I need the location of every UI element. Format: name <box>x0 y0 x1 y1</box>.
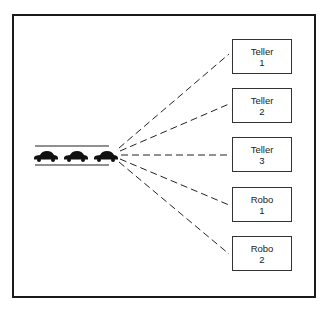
car-icon <box>64 151 88 162</box>
server-box-teller-2: Teller 2 <box>232 88 292 123</box>
server-number: 2 <box>259 106 264 117</box>
server-box-teller-1: Teller 1 <box>232 39 292 74</box>
route-line-robo-2 <box>119 162 229 254</box>
server-number: 1 <box>259 57 264 68</box>
server-label: Teller <box>251 144 274 155</box>
server-box-robo-2: Robo 2 <box>232 236 292 271</box>
car-icon <box>94 151 118 162</box>
car-icon <box>34 151 58 162</box>
server-label: Teller <box>251 46 274 57</box>
server-number: 1 <box>259 205 264 216</box>
server-label: Teller <box>251 95 274 106</box>
route-line-teller-1 <box>119 54 229 148</box>
server-number: 3 <box>259 155 264 166</box>
server-box-teller-3: Teller 3 <box>232 137 292 172</box>
server-box-robo-1: Robo 1 <box>232 187 292 222</box>
route-line-teller-2 <box>120 104 229 151</box>
server-label: Robo <box>251 194 274 205</box>
route-line-robo-1 <box>120 159 229 205</box>
server-label: Robo <box>251 243 274 254</box>
server-number: 2 <box>259 254 264 265</box>
